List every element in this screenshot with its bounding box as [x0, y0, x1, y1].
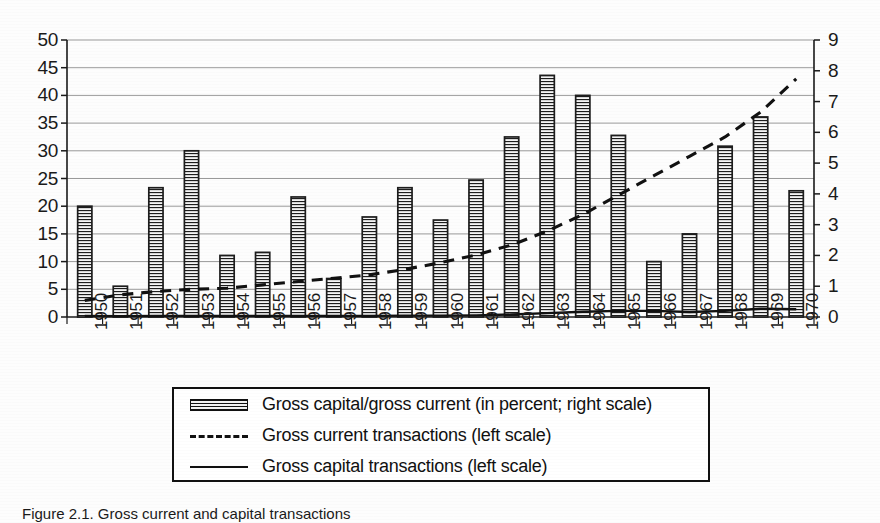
x-axis-tick-1963: 1963: [554, 293, 574, 330]
left-axis-tick-20: 20: [12, 196, 58, 215]
right-axis-tick-7: 7: [828, 92, 868, 111]
x-axis-tick-1962: 1962: [519, 293, 539, 330]
legend-item-label: Gross capital/gross current (in percent;…: [262, 394, 652, 415]
chart-legend: Gross capital/gross current (in percent;…: [172, 387, 710, 482]
chart-canvas: 05101520253035404550 0123456789 19501951…: [0, 0, 880, 330]
x-axis-tick-1953: 1953: [199, 293, 219, 330]
x-axis-tick-1968: 1968: [732, 293, 752, 330]
x-axis-tick-1967: 1967: [697, 293, 717, 330]
x-axis-tick-1957: 1957: [341, 293, 361, 330]
chart-bars: [78, 75, 804, 317]
right-axis-tick-5: 5: [828, 153, 868, 172]
left-axis-tick-0: 0: [12, 307, 58, 326]
x-axis-tick-1954: 1954: [234, 293, 254, 330]
hatched-bar-swatch-icon: [188, 394, 250, 416]
x-axis-tick-1970: 1970: [803, 293, 823, 330]
left-axis-tick-10: 10: [12, 252, 58, 271]
figure-caption: Figure 2.1. Gross current and capital tr…: [22, 503, 862, 523]
legend-item-gross-current-transactions: Gross current transactions (left scale): [174, 420, 708, 451]
x-axis-tick-1956: 1956: [305, 293, 325, 330]
right-axis-tick-0: 0: [828, 307, 868, 326]
x-axis-tick-1964: 1964: [590, 293, 610, 330]
legend-item-gross-capital-transactions: Gross capital transactions (left scale): [174, 451, 708, 482]
figure-page: 05101520253035404550 0123456789 19501951…: [0, 0, 880, 523]
left-axis-tick-50: 50: [12, 30, 58, 49]
right-axis-tick-6: 6: [828, 122, 868, 141]
left-axis-tick-5: 5: [12, 279, 58, 298]
dashed-line-swatch-icon: [188, 425, 250, 447]
legend-item-label: Gross capital transactions (left scale): [262, 456, 547, 477]
right-axis-tick-9: 9: [828, 30, 868, 49]
right-axis-tick-1: 1: [828, 276, 868, 295]
legend-item-label: Gross current transactions (left scale): [262, 425, 551, 446]
x-axis-tick-1959: 1959: [412, 293, 432, 330]
x-axis-tick-1969: 1969: [768, 293, 788, 330]
right-axis-tick-3: 3: [828, 215, 868, 234]
x-axis-tick-1950: 1950: [92, 293, 112, 330]
left-axis-tick-25: 25: [12, 169, 58, 188]
left-axis-tick-40: 40: [12, 85, 58, 104]
x-axis-tick-1951: 1951: [127, 293, 147, 330]
left-axis-tick-45: 45: [12, 58, 58, 77]
x-axis-tick-1965: 1965: [625, 293, 645, 330]
x-axis-tick-1958: 1958: [376, 293, 396, 330]
x-axis-tick-1955: 1955: [270, 293, 290, 330]
chart-plot-svg: [0, 0, 880, 330]
x-axis-tick-1966: 1966: [661, 293, 681, 330]
solid-line-swatch-icon: [188, 456, 250, 478]
right-axis-tick-4: 4: [828, 184, 868, 203]
legend-item-gross-capital-ratio: Gross capital/gross current (in percent;…: [174, 389, 708, 420]
right-axis-tick-2: 2: [828, 245, 868, 264]
x-axis-tick-1960: 1960: [448, 293, 468, 330]
left-axis-tick-30: 30: [12, 141, 58, 160]
x-axis-tick-1961: 1961: [483, 293, 503, 330]
left-axis-tick-15: 15: [12, 224, 58, 243]
left-axis-tick-35: 35: [12, 113, 58, 132]
right-axis-tick-8: 8: [828, 61, 868, 80]
x-axis-tick-1952: 1952: [163, 293, 183, 330]
